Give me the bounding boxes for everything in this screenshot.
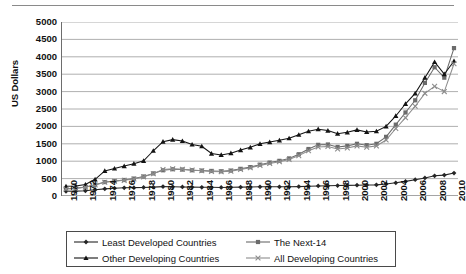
- data-point-diamond: [84, 240, 89, 245]
- x-tick-label: 1982: [185, 180, 195, 201]
- x-tick-label: 2006: [418, 180, 428, 201]
- x-tick-label: 1990: [263, 180, 273, 201]
- legend-label: Least Developed Countries: [102, 237, 217, 248]
- x-tick-label: 1980: [166, 180, 176, 201]
- legend-label: The Next-14: [274, 237, 326, 248]
- x-tick-label: 2010: [457, 180, 466, 201]
- legend-marker-square-icon: [245, 237, 271, 247]
- x-tick-label: 2004: [399, 180, 409, 201]
- legend-label: All Developing Countries: [274, 253, 378, 264]
- legend-item[interactable]: All Developing Countries: [245, 250, 378, 266]
- x-tick-label: 1978: [147, 180, 157, 201]
- x-tick-label: 1974: [108, 180, 118, 201]
- x-tick-label: 1998: [341, 180, 351, 201]
- x-tick-label: 1970: [69, 180, 79, 201]
- x-tick-label: 1988: [244, 180, 254, 201]
- x-tick-label: 1972: [88, 180, 98, 201]
- chart-legend: Least Developed CountriesThe Next-14Othe…: [66, 231, 396, 267]
- data-point-square: [256, 240, 260, 244]
- legend-label: Other Developing Countries: [102, 253, 219, 264]
- legend-item[interactable]: The Next-14: [245, 234, 326, 250]
- legend-marker-triangle-icon: [73, 253, 99, 263]
- x-tick-label: 2008: [438, 180, 448, 201]
- legend-marker-diamond-icon: [73, 237, 99, 247]
- legend-marker-cross-icon: [245, 253, 271, 263]
- chart-figure: US Dollars 50004500400035003000250020001…: [0, 0, 466, 274]
- x-tick-label: 1992: [282, 180, 292, 201]
- x-tick-label: 1996: [321, 180, 331, 201]
- x-tick-label: 1984: [205, 180, 215, 201]
- x-tick-label: 1986: [224, 180, 234, 201]
- legend-item[interactable]: Least Developed Countries: [73, 234, 217, 250]
- x-tick-label: 2002: [379, 180, 389, 201]
- x-tick-label: 1994: [302, 180, 312, 201]
- x-tick-label: 1976: [127, 180, 137, 201]
- legend-item[interactable]: Other Developing Countries: [73, 250, 219, 266]
- x-tick-label: 2000: [360, 180, 370, 201]
